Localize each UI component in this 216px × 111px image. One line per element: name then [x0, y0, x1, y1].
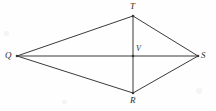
- vertex-label-v: V: [136, 44, 141, 53]
- segment-QT: [17, 16, 133, 56]
- vertex-label-t: T: [130, 2, 135, 11]
- segment-TS: [133, 16, 198, 56]
- vertex-dot-group: [16, 15, 200, 95]
- vertex-label-q: Q: [5, 51, 12, 60]
- segment-group: [17, 16, 198, 93]
- scan-speck: [62, 100, 67, 104]
- vertex-dot-V: [132, 55, 135, 58]
- vertex-dot-T: [132, 15, 135, 18]
- segment-SR: [133, 56, 198, 93]
- segment-RQ: [17, 56, 133, 93]
- vertex-dot-Q: [16, 55, 19, 58]
- scan-speck: [4, 31, 9, 36]
- geometry-canvas: [0, 0, 216, 111]
- vertex-dot-S: [197, 55, 200, 58]
- scan-speck: [196, 88, 202, 94]
- vertex-label-s: S: [201, 51, 206, 60]
- vertex-dot-R: [132, 92, 135, 95]
- vertex-label-r: R: [130, 96, 136, 105]
- geometry-figure: T Q V S R: [0, 0, 216, 111]
